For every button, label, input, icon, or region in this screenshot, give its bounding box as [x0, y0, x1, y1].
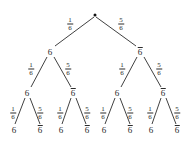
- edge-l2a-left: [15, 98, 25, 124]
- node-not6: 6: [138, 47, 143, 57]
- edge-label-l2c-right: 56: [127, 106, 133, 121]
- fraction-numerator: 5: [118, 17, 124, 24]
- edge-label-root-left: 16: [67, 17, 73, 32]
- edge-root-left: [55, 17, 94, 46]
- leaf-6: 6: [12, 126, 17, 135]
- leaf-not6: 6: [85, 125, 90, 135]
- node-not6: 6: [161, 88, 166, 98]
- edge-label-l2d-left: 16: [147, 106, 153, 121]
- node-6: 6: [48, 48, 53, 57]
- leaf-not6: 6: [38, 125, 43, 135]
- fraction-numerator: 1: [119, 62, 125, 69]
- edge-label-l2b-right: 56: [84, 106, 90, 121]
- fraction-numerator: 5: [156, 62, 162, 69]
- fraction-numerator: 5: [37, 106, 43, 113]
- edge-root-right: [96, 17, 136, 46]
- edge-l2c-left: [105, 98, 115, 124]
- fraction-numerator: 1: [100, 106, 106, 113]
- leaf-6: 6: [59, 126, 64, 135]
- edge-l2d-left: [152, 98, 161, 124]
- edge-label-l2a-right: 56: [37, 106, 43, 121]
- fraction-denominator: 6: [10, 113, 16, 121]
- edge-label-l2b-left: 16: [57, 106, 63, 121]
- fraction-denominator: 6: [28, 69, 34, 77]
- fraction-numerator: 5: [127, 106, 133, 113]
- edge-label-l1b-right: 56: [156, 62, 162, 77]
- fraction-numerator: 1: [67, 17, 73, 24]
- fraction-numerator: 5: [84, 106, 90, 113]
- fraction-numerator: 5: [65, 62, 71, 69]
- edge-label-l2c-left: 16: [100, 106, 106, 121]
- fraction-denominator: 6: [37, 113, 43, 121]
- node-not6: 6: [71, 88, 76, 98]
- fraction-numerator: 1: [147, 106, 153, 113]
- fraction-denominator: 6: [100, 113, 106, 121]
- probability-tree-diagram: 66666666666666 1656165616561656165616561…: [0, 0, 190, 145]
- fraction-denominator: 6: [147, 113, 153, 121]
- fraction-numerator: 1: [10, 106, 16, 113]
- fraction-numerator: 1: [57, 106, 63, 113]
- fraction-denominator: 6: [84, 113, 90, 121]
- leaf-not6: 6: [128, 125, 133, 135]
- edge-l2b-left: [62, 98, 71, 124]
- fraction-denominator: 6: [57, 113, 63, 121]
- leaf-not6: 6: [175, 125, 180, 135]
- fraction-numerator: 1: [28, 62, 34, 69]
- leaf-6: 6: [102, 126, 107, 135]
- node-6: 6: [115, 89, 120, 98]
- edge-label-l1b-left: 16: [119, 62, 125, 77]
- fraction-denominator: 6: [118, 24, 124, 32]
- fraction-denominator: 6: [174, 113, 180, 121]
- leaf-6: 6: [149, 126, 154, 135]
- fraction-denominator: 6: [127, 113, 133, 121]
- fraction-denominator: 6: [119, 69, 125, 77]
- edge-label-l1a-left: 16: [28, 62, 34, 77]
- fraction-denominator: 6: [156, 69, 162, 77]
- fraction-denominator: 6: [65, 69, 71, 77]
- edge-label-root-right: 56: [118, 17, 124, 32]
- fraction-numerator: 5: [174, 106, 180, 113]
- edge-label-l2d-right: 56: [174, 106, 180, 121]
- node-6: 6: [25, 89, 30, 98]
- fraction-denominator: 6: [67, 24, 73, 32]
- edge-label-l1a-right: 56: [65, 62, 71, 77]
- root-node: [94, 14, 97, 17]
- edge-label-l2a-left: 16: [10, 106, 16, 121]
